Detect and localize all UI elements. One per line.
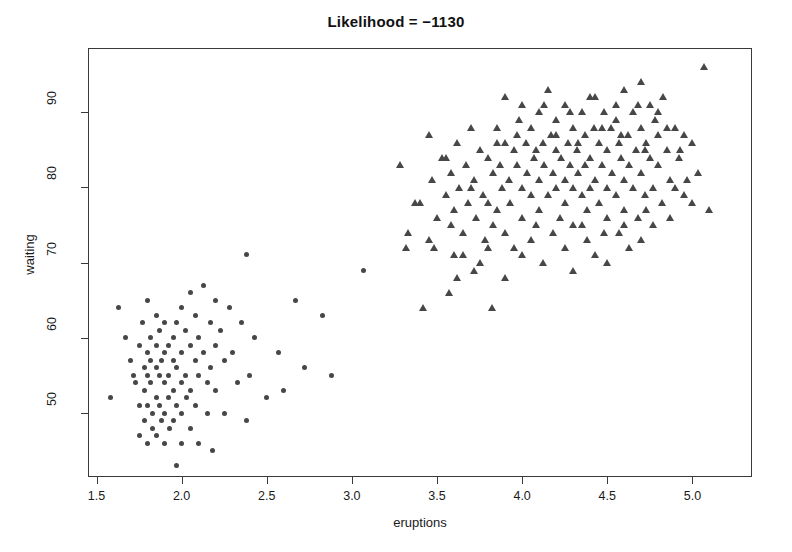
data-point-triangle	[433, 214, 441, 221]
data-point-triangle	[539, 259, 547, 266]
data-point-circle	[179, 441, 184, 446]
data-point-circle	[188, 426, 193, 431]
data-point-triangle	[591, 251, 599, 258]
data-points-layer	[88, 48, 752, 477]
x-axis-tick	[522, 477, 523, 484]
data-point-triangle	[578, 221, 586, 228]
data-point-triangle	[447, 221, 455, 228]
data-point-triangle	[547, 131, 555, 138]
data-point-triangle	[578, 191, 586, 198]
data-point-circle	[148, 380, 153, 385]
data-point-circle	[196, 441, 201, 446]
data-point-triangle	[666, 176, 674, 183]
data-point-circle	[142, 388, 147, 393]
data-point-triangle	[404, 229, 412, 236]
data-point-triangle	[629, 108, 637, 115]
page-title: Likelihood = −1130	[0, 13, 792, 30]
data-point-circle	[244, 252, 249, 257]
data-point-triangle	[549, 229, 557, 236]
data-point-triangle	[513, 131, 521, 138]
data-point-triangle	[603, 214, 611, 221]
data-point-triangle	[467, 124, 475, 131]
data-point-triangle	[522, 139, 530, 146]
data-point-triangle	[493, 206, 501, 213]
data-point-triangle	[586, 184, 594, 191]
data-point-circle	[166, 395, 171, 400]
x-axis-tick	[97, 477, 98, 484]
data-point-circle	[201, 283, 206, 288]
data-point-triangle	[464, 199, 472, 206]
data-point-triangle	[493, 124, 501, 131]
data-point-circle	[137, 403, 142, 408]
data-point-triangle	[552, 116, 560, 123]
data-point-triangle	[705, 206, 713, 213]
data-point-circle	[150, 411, 155, 416]
data-point-triangle	[654, 161, 662, 168]
data-point-triangle	[583, 206, 591, 213]
data-point-circle	[133, 380, 138, 385]
data-point-circle	[174, 320, 179, 325]
data-point-circle	[154, 395, 159, 400]
data-point-circle	[145, 298, 150, 303]
data-point-triangle	[535, 206, 543, 213]
x-axis-tick-label: 1.5	[77, 489, 117, 503]
data-point-triangle	[620, 176, 628, 183]
data-point-triangle	[569, 124, 577, 131]
data-point-triangle	[411, 199, 419, 206]
data-point-circle	[174, 365, 179, 370]
data-point-circle	[137, 433, 142, 438]
data-point-triangle	[402, 244, 410, 251]
data-point-triangle	[496, 161, 504, 168]
data-point-triangle	[549, 169, 557, 176]
data-point-triangle	[634, 101, 642, 108]
data-point-triangle	[539, 139, 547, 146]
data-point-circle	[123, 335, 128, 340]
data-point-circle	[196, 335, 201, 340]
data-point-triangle	[632, 146, 640, 153]
data-point-triangle	[694, 169, 702, 176]
x-axis-tick	[182, 477, 183, 484]
data-point-circle	[148, 335, 153, 340]
data-point-circle	[361, 268, 366, 273]
data-point-triangle	[515, 116, 523, 123]
data-point-triangle	[637, 78, 645, 85]
data-point-triangle	[569, 267, 577, 274]
data-point-triangle	[501, 93, 509, 100]
data-point-circle	[193, 403, 198, 408]
data-point-circle	[193, 313, 198, 318]
data-point-triangle	[671, 184, 679, 191]
data-point-triangle	[450, 251, 458, 258]
data-point-triangle	[641, 146, 649, 153]
data-point-circle	[162, 441, 167, 446]
data-point-triangle	[532, 146, 540, 153]
data-point-triangle	[586, 93, 594, 100]
data-point-circle	[140, 320, 145, 325]
data-point-circle	[247, 373, 252, 378]
data-point-circle	[157, 403, 162, 408]
data-point-circle	[183, 328, 188, 333]
x-axis-tick	[352, 477, 353, 484]
data-point-circle	[293, 298, 298, 303]
data-point-triangle	[683, 176, 691, 183]
data-point-triangle	[476, 146, 484, 153]
data-point-triangle	[612, 101, 620, 108]
data-point-circle	[162, 320, 167, 325]
data-point-triangle	[651, 116, 659, 123]
data-point-circle	[150, 426, 155, 431]
data-point-triangle	[513, 161, 521, 168]
data-point-triangle	[530, 154, 538, 161]
data-point-triangle	[540, 101, 548, 108]
data-point-triangle	[438, 154, 446, 161]
data-point-triangle	[603, 184, 611, 191]
data-point-triangle	[620, 206, 628, 213]
data-point-triangle	[688, 199, 696, 206]
data-point-triangle	[578, 108, 586, 115]
data-point-triangle	[600, 229, 608, 236]
data-point-triangle	[561, 244, 569, 251]
data-point-triangle	[453, 139, 461, 146]
data-point-triangle	[569, 221, 577, 228]
x-axis-tick-label: 3.5	[417, 489, 457, 503]
data-point-circle	[157, 373, 162, 378]
data-point-triangle	[561, 176, 569, 183]
data-point-triangle	[557, 154, 565, 161]
